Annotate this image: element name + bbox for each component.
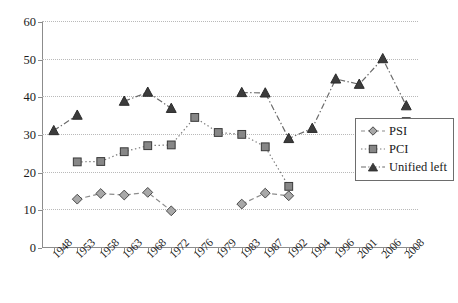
y-tick-mark-10: [38, 210, 42, 211]
gridline-50: 50: [42, 59, 418, 60]
gridline-10: 10: [42, 209, 418, 210]
y-tick-label-30: 30: [24, 128, 37, 143]
y-tick-label-40: 40: [24, 90, 37, 105]
y-tick-mark-50: [38, 60, 42, 61]
gridline-40: 40: [42, 96, 418, 97]
y-tick-label-50: 50: [24, 52, 37, 67]
legend-label-pci: PCI: [389, 142, 408, 156]
y-tick-mark-20: [38, 173, 42, 174]
legend-marker-unified-left: [360, 160, 386, 174]
y-tick-mark-30: [38, 135, 42, 136]
legend-item-unified-left: Unified left: [360, 158, 449, 176]
y-tick-mark-60: [38, 22, 42, 23]
legend-label-psi: PSI: [389, 124, 407, 138]
y-tick-label-20: 20: [24, 165, 37, 180]
legend: PSI PCI Unified left: [355, 118, 454, 181]
legend-item-psi: PSI: [360, 122, 449, 140]
gridline-60: 60: [42, 21, 418, 22]
y-tick-mark-40: [38, 97, 42, 98]
y-tick-label-0: 0: [30, 241, 36, 256]
y-tick-label-10: 10: [24, 203, 37, 218]
legend-marker-pci: [360, 142, 386, 156]
chart-container: 0102030405060 19481953195819631968197219…: [0, 0, 458, 303]
y-tick-label-60: 60: [24, 15, 37, 30]
legend-item-pci: PCI: [360, 140, 449, 158]
legend-marker-psi: [360, 124, 386, 138]
y-tick-mark-0: [38, 248, 42, 249]
legend-label-unified-left: Unified left: [389, 160, 447, 174]
